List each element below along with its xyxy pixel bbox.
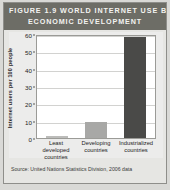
figure-title-line-1: FIGURE 1.9 WORLD INTERNET USE BY xyxy=(9,6,161,17)
figure-title-banner: FIGURE 1.9 WORLD INTERNET USE BY ECONOMI… xyxy=(4,3,166,30)
y-axis-label: Internet users per 100 people xyxy=(7,42,17,134)
x-axis-tick-labels: LeastdevelopedcountriesDevelopingcountri… xyxy=(36,140,156,162)
x-tick-label-line: countries xyxy=(117,147,155,154)
y-tick-label: 30 xyxy=(25,84,32,91)
x-tick-label-line: Industrialized xyxy=(117,140,155,147)
bar xyxy=(46,136,68,138)
figure-title-line-2: ECONOMIC DEVELOPMENT xyxy=(9,17,161,28)
x-tick-label: Developingcountries xyxy=(77,140,115,162)
y-tick-mark xyxy=(33,35,35,36)
y-tick-label: 0 xyxy=(29,136,32,143)
y-tick-mark xyxy=(33,87,35,88)
y-tick-mark xyxy=(33,104,35,105)
plot-frame xyxy=(36,35,156,139)
bar xyxy=(124,37,146,138)
y-axis-tick-labels: 6050403020100 xyxy=(18,35,35,139)
x-tick-label-line: Least xyxy=(37,140,75,147)
x-tick-label-line: developed xyxy=(37,147,75,154)
y-tick-label: 10 xyxy=(25,118,32,125)
y-tick-mark xyxy=(33,121,35,122)
x-tick-label-line: Developing xyxy=(77,140,115,147)
x-tick-label: Leastdevelopedcountries xyxy=(37,140,75,162)
y-tick-mark xyxy=(33,139,35,140)
y-tick-mark xyxy=(33,69,35,70)
x-tick-label-line: countries xyxy=(37,154,75,161)
y-tick-label: 20 xyxy=(25,101,32,108)
x-tick-label: Industrializedcountries xyxy=(117,140,155,162)
figure-box: FIGURE 1.9 WORLD INTERNET USE BY ECONOMI… xyxy=(3,2,167,184)
x-tick-label-line: countries xyxy=(77,147,115,154)
y-tick-label: 60 xyxy=(25,32,32,39)
y-tick-label: 50 xyxy=(25,49,32,56)
chart-area: Internet users per 100 people 6050403020… xyxy=(9,32,163,158)
bar-series xyxy=(37,36,155,138)
bar xyxy=(85,122,107,138)
y-tick-label: 40 xyxy=(25,66,32,73)
y-tick-mark xyxy=(33,52,35,53)
figure-root: FIGURE 1.9 WORLD INTERNET USE BY ECONOMI… xyxy=(0,0,170,190)
source-note: Source: United Nations Statistics Divisi… xyxy=(11,166,132,172)
